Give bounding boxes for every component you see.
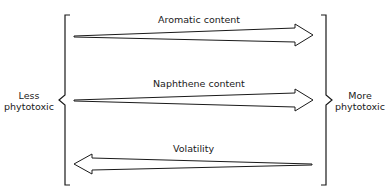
volatility-arrow: [74, 154, 312, 174]
phytotoxic-text-left: phytotoxic: [2, 101, 56, 112]
aromatic-content-arrow: [74, 24, 313, 46]
right-bracket: [321, 15, 332, 185]
naphthene-content-arrow: [74, 89, 313, 111]
diagram-canvas: [0, 0, 388, 195]
volatility-label: Volatility: [173, 143, 214, 154]
less-phytotoxic-label: Less phytotoxic: [2, 90, 56, 112]
naphthene-content-label: Naphthene content: [153, 78, 245, 89]
aromatic-content-label: Aromatic content: [158, 14, 240, 25]
more-text: More: [333, 90, 387, 101]
more-phytotoxic-label: More phytotoxic: [333, 90, 387, 112]
left-bracket: [59, 15, 70, 185]
less-text: Less: [2, 90, 56, 101]
phytotoxic-text-right: phytotoxic: [333, 101, 387, 112]
